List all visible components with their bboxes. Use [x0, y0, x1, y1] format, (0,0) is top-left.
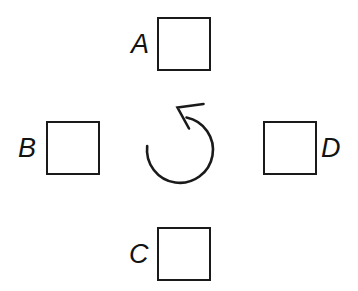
square-a [157, 17, 211, 71]
label-c: C [129, 241, 149, 268]
diagram-page: { "figure": { "title": "Rotation arrange… [0, 0, 358, 291]
rotation-arc-path [147, 118, 213, 183]
label-a: A [131, 31, 149, 58]
square-b [46, 121, 100, 175]
label-b: B [18, 135, 36, 162]
label-d: D [321, 135, 341, 162]
square-d [263, 121, 317, 175]
square-c [157, 227, 211, 281]
